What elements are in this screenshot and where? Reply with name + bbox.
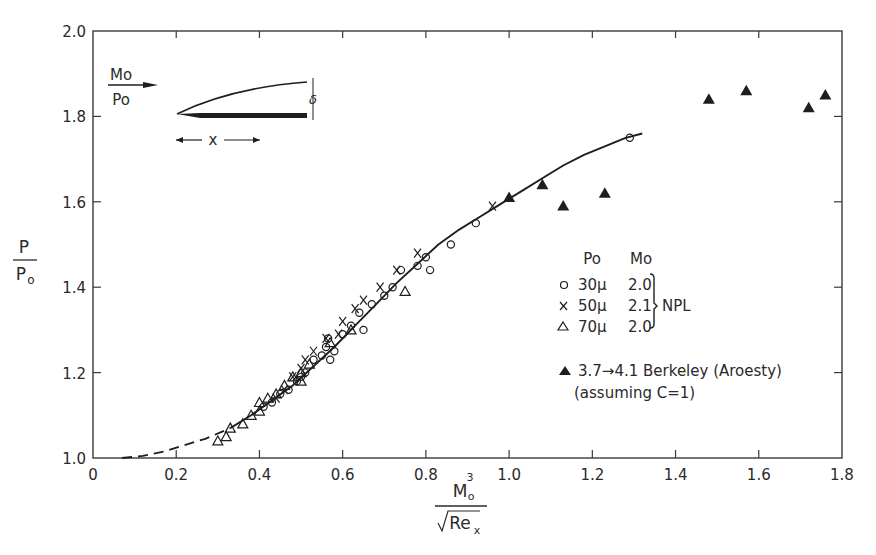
filled-triangle-marker: [740, 85, 752, 96]
x-tick-label: 0.6: [331, 466, 355, 484]
y-tick-label: 2.0: [62, 23, 86, 41]
cross-marker: [393, 266, 400, 275]
legend-header-mo: Mo: [630, 250, 652, 268]
filled-triangle-marker: [803, 102, 815, 113]
circle-marker: [472, 220, 479, 227]
x-axis-label: M o 3 Re x: [435, 471, 487, 537]
y-tick-label: 1.0: [62, 450, 86, 468]
circle-marker: [368, 301, 375, 308]
circle-marker: [426, 267, 433, 274]
y-tick-label: 1.2: [62, 365, 86, 383]
legend-po-30: 30μ: [578, 276, 607, 294]
cross-marker: [377, 283, 384, 292]
y-tick-label: 1.6: [62, 194, 86, 212]
legend-berkeley-label: 3.7→4.1 Berkeley (Aroesty): [578, 362, 782, 380]
y-tick-label: 1.8: [62, 108, 86, 126]
legend-mo-30: 2.0: [628, 276, 652, 294]
x-tick-label: 1.4: [664, 466, 688, 484]
svg-text:P: P: [19, 237, 29, 257]
legend-mo-50: 2.1: [628, 297, 652, 315]
legend-po-50: 50μ: [578, 297, 607, 315]
svg-text:o: o: [468, 490, 475, 503]
cross-marker: [414, 249, 421, 258]
legend-open-triangle-icon: [558, 322, 568, 330]
svg-text:3: 3: [467, 471, 474, 484]
y-tick-label: 1.4: [62, 279, 86, 297]
circle-marker: [327, 356, 334, 363]
inset-x-label: x: [209, 131, 218, 149]
svg-text:o: o: [27, 273, 34, 287]
cross-marker: [310, 347, 317, 356]
inset-delta-label: δ: [309, 92, 317, 107]
circle-marker: [360, 326, 367, 333]
filled-triangle-marker: [703, 93, 715, 104]
y-axis-label: P P o: [13, 237, 37, 287]
x-tick-label: 0.8: [414, 466, 438, 484]
x-tick-label: 0.4: [248, 466, 272, 484]
legend-mo-70: 2.0: [628, 318, 652, 336]
circle-marker: [331, 348, 338, 355]
svg-text:x: x: [474, 524, 481, 537]
inset-diagram: Mo Po δ x: [108, 66, 317, 149]
legend-filled-triangle-icon: [559, 366, 571, 375]
legend-npl-label: NPL: [662, 297, 691, 315]
fit-curve: [122, 134, 642, 459]
x-tick-label: 1.2: [580, 466, 604, 484]
legend-po-70: 70μ: [578, 318, 607, 336]
chart: 00.20.40.60.81.01.21.41.61.81.01.21.41.6…: [0, 0, 876, 555]
cross-marker: [360, 296, 367, 305]
cross-marker: [335, 330, 342, 339]
filled-triangle-marker: [599, 187, 611, 198]
legend-circle-icon: [561, 282, 568, 289]
x-tick-label: 0: [88, 466, 98, 484]
inset-po-label: Po: [112, 91, 130, 109]
plot-frame: [93, 31, 842, 458]
open-triangle-marker: [221, 432, 231, 441]
svg-text:P: P: [16, 264, 26, 284]
cross-marker: [339, 317, 346, 326]
legend-berkeley-note: (assuming C=1): [574, 384, 695, 402]
svg-text:Re: Re: [449, 513, 471, 533]
circle-marker: [447, 241, 454, 248]
x-tick-label: 1.8: [830, 466, 854, 484]
filled-triangle-marker: [819, 89, 831, 100]
svg-text:M: M: [453, 481, 468, 501]
axis-ticks: 00.20.40.60.81.01.21.41.61.81.01.21.41.6…: [62, 23, 854, 484]
filled-triangle-marker: [557, 200, 569, 211]
data-points: [213, 85, 832, 445]
x-tick-label: 1.0: [497, 466, 521, 484]
inset-mo-label: Mo: [110, 66, 132, 84]
cross-marker: [352, 304, 359, 313]
legend-cross-icon: [560, 302, 567, 310]
legend: Po Mo 30μ 2.0 50μ 2.1 70μ 2.0 NPL 3.7→4.…: [558, 250, 782, 402]
open-triangle-marker: [400, 286, 410, 295]
legend-header-po: Po: [583, 250, 601, 268]
x-tick-label: 1.6: [747, 466, 771, 484]
x-tick-label: 0.2: [164, 466, 188, 484]
